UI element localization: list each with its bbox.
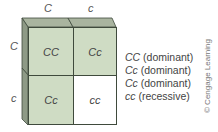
- genotype-legend: CC (dominant) Cc (dominant) Cc (dominant…: [125, 51, 193, 103]
- cell-cc: cc: [73, 75, 117, 125]
- legend-item: Cc (dominant): [125, 77, 193, 90]
- cell-genotype: cc: [74, 94, 116, 106]
- cell-genotype: Cc: [74, 46, 116, 58]
- legend-genotype: Cc: [125, 77, 138, 89]
- cell-CC: CC: [28, 27, 74, 76]
- legend-genotype: Cc: [125, 64, 138, 76]
- cell-Cc-bottom: Cc: [28, 75, 74, 125]
- legend-label: (recessive): [138, 90, 189, 102]
- cell-genotype: Cc: [29, 94, 73, 106]
- cell-genotype: CC: [29, 46, 73, 58]
- cell-Cc-top: Cc: [73, 27, 117, 76]
- legend-item: CC (dominant): [125, 51, 193, 64]
- legend-item: cc (recessive): [125, 90, 193, 103]
- legend-genotype: cc: [125, 90, 136, 102]
- legend-label: (dominant): [143, 51, 193, 63]
- legend-genotype: CC: [125, 51, 140, 63]
- legend-label: (dominant): [141, 64, 191, 76]
- legend-item: Cc (dominant): [125, 64, 193, 77]
- copyright-credit: © Cengage Learning: [203, 39, 212, 113]
- legend-label: (dominant): [141, 77, 191, 89]
